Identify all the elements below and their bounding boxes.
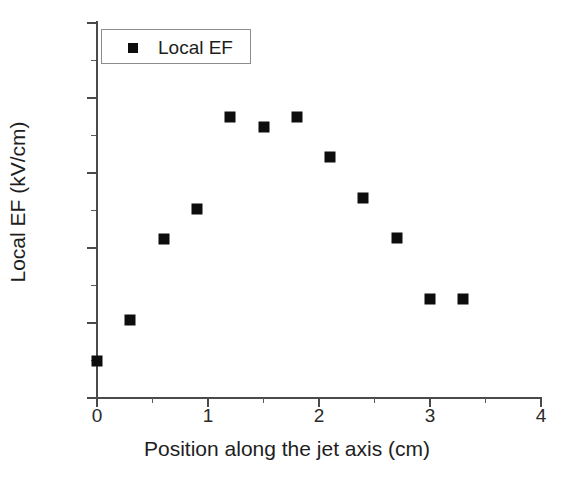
data-point-marker	[125, 315, 136, 326]
scatter-plot-figure: 20406080100120 Local EF Local EF (kV/cm)…	[0, 0, 574, 485]
legend-box: Local EF	[101, 29, 251, 64]
plot-area	[97, 23, 541, 398]
data-point-marker	[92, 355, 103, 366]
x-tick-minor	[152, 398, 153, 403]
y-tick-minor	[91, 210, 96, 211]
x-tick-label: 0	[92, 406, 103, 425]
y-tick-minor	[91, 135, 96, 136]
x-tick-minor	[374, 398, 375, 403]
x-tick-label: 3	[425, 406, 436, 425]
legend-square-marker-icon	[128, 43, 138, 53]
data-point-marker	[191, 203, 202, 214]
y-axis-title: Local EF (kV/cm)	[6, 0, 30, 412]
data-point-marker	[158, 234, 169, 245]
x-tick-label: 4	[536, 406, 547, 425]
y-tick-major	[87, 322, 96, 324]
data-point-marker	[458, 293, 469, 304]
x-tick-minor	[485, 398, 486, 403]
x-axis-ticks	[0, 398, 574, 418]
data-point-marker	[391, 232, 402, 243]
data-point-marker	[291, 111, 302, 122]
x-tick-minor	[263, 398, 264, 403]
x-tick-label: 2	[314, 406, 325, 425]
x-axis-title: Position along the jet axis (cm)	[0, 437, 574, 461]
x-tick-label: 1	[203, 406, 214, 425]
data-point-marker	[325, 151, 336, 162]
y-tick-major	[87, 22, 96, 24]
legend-entry-label: Local EF	[158, 37, 233, 58]
data-point-marker	[225, 111, 236, 122]
y-tick-minor	[91, 60, 96, 61]
y-tick-major	[87, 97, 96, 99]
data-point-marker	[358, 192, 369, 203]
data-point-marker	[425, 293, 436, 304]
y-tick-minor	[91, 285, 96, 286]
y-tick-major	[87, 247, 96, 249]
y-tick-major	[87, 172, 96, 174]
data-point-marker	[258, 122, 269, 133]
